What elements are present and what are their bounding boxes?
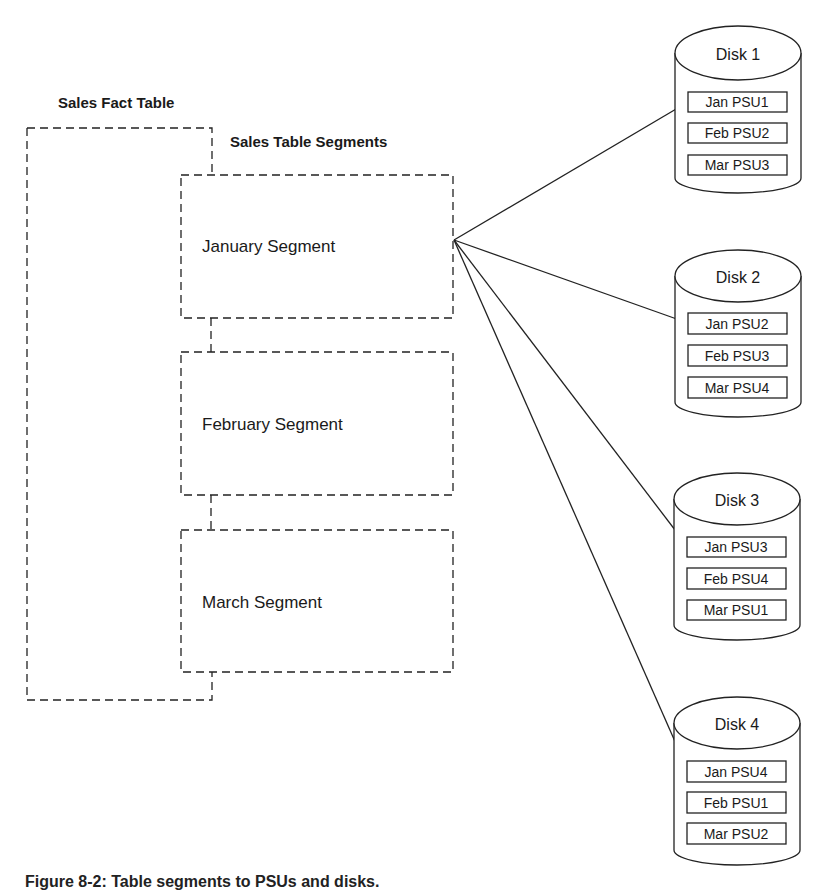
link-line xyxy=(454,240,688,771)
psu-label: Feb PSU2 xyxy=(705,125,770,141)
disk-2-label: Disk 2 xyxy=(716,269,761,286)
psu-label: Jan PSU4 xyxy=(704,764,767,780)
march-segment-label: March Segment xyxy=(202,593,322,612)
fact-table-label: Sales Fact Table xyxy=(58,94,174,111)
psu-label: Feb PSU3 xyxy=(705,348,770,364)
link-line xyxy=(454,102,688,240)
psu-label: Feb PSU1 xyxy=(704,795,769,811)
disk-3-label: Disk 3 xyxy=(715,492,760,509)
figure-caption: Figure 8-2: Table segments to PSUs and d… xyxy=(25,873,379,891)
psu-label: Mar PSU2 xyxy=(704,826,769,842)
psu-label: Feb PSU4 xyxy=(704,571,769,587)
psu-label: Mar PSU1 xyxy=(704,602,769,618)
link-line xyxy=(454,240,688,547)
psu-label: Mar PSU4 xyxy=(705,380,770,396)
psu-label: Jan PSU3 xyxy=(704,539,767,555)
disk-4-label: Disk 4 xyxy=(715,716,760,733)
february-segment-label: February Segment xyxy=(202,415,343,434)
psu-label: Jan PSU2 xyxy=(705,316,768,332)
disk-1-label: Disk 1 xyxy=(716,46,761,63)
psu-label: Mar PSU3 xyxy=(705,157,770,173)
fact-table-outline xyxy=(27,128,212,700)
segments-title: Sales Table Segments xyxy=(230,133,387,150)
psu-label: Jan PSU1 xyxy=(705,94,768,110)
january-segment-label: January Segment xyxy=(202,237,336,256)
link-line xyxy=(454,240,688,323)
